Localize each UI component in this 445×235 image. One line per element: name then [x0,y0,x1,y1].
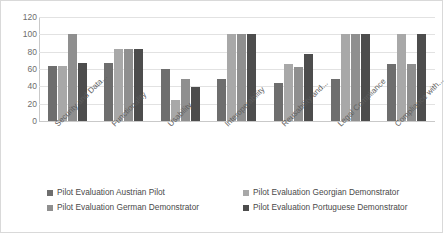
legend-swatch-icon [243,205,249,211]
legend-item[interactable]: Pilot Evaluation Portuguese Demonstrator [243,203,437,212]
bar[interactable] [274,83,283,121]
chart-legend: Pilot Evaluation Austrian PilotPilot Eva… [47,185,437,215]
y-axis-tick-label: 60 [3,65,37,74]
legend-label: Pilot Evaluation Austrian Pilot [57,188,165,197]
bar-group [209,17,266,121]
bar-group [265,17,322,121]
bar-group [152,17,209,121]
y-axis-tick-label: 80 [3,48,37,57]
y-axis-tick-label: 120 [3,13,37,22]
y-axis-tick-label: 40 [3,82,37,91]
bar[interactable] [304,54,313,121]
bar[interactable] [387,64,396,121]
bar-group [39,17,96,121]
bar[interactable] [331,79,340,121]
y-axis-tick-label: 100 [3,30,37,39]
plot-area [39,17,435,121]
legend-label: Pilot Evaluation Georgian Demonstrator [253,188,399,197]
bar[interactable] [104,63,113,121]
bar[interactable] [191,87,200,121]
legend-swatch-icon [47,205,53,211]
bar-group [322,17,379,121]
bar[interactable] [217,79,226,121]
y-axis-tick-label: 0 [3,117,37,126]
legend-item[interactable]: Pilot Evaluation Georgian Demonstrator [243,188,437,197]
legend-label: Pilot Evaluation Portuguese Demonstrator [253,203,408,212]
bar[interactable] [134,49,143,121]
legend-label: Pilot Evaluation German Demonstrator [57,203,199,212]
bar-group [96,17,153,121]
legend-item[interactable]: Pilot Evaluation Austrian Pilot [47,188,243,197]
bar[interactable] [397,34,406,121]
y-axis-tick-labels: 120100806040200 [1,17,37,122]
bar[interactable] [161,69,170,121]
bar-chart: 120100806040200 Security and Data...Func… [0,0,443,233]
legend-item[interactable]: Pilot Evaluation German Demonstrator [47,203,243,212]
legend-swatch-icon [243,190,249,196]
bar-group [378,17,435,121]
y-axis-tick-label: 20 [3,100,37,109]
legend-swatch-icon [47,190,53,196]
bar[interactable] [48,66,57,121]
x-axis-category-labels: Security and Data...FunctionalityUsabili… [39,122,435,180]
